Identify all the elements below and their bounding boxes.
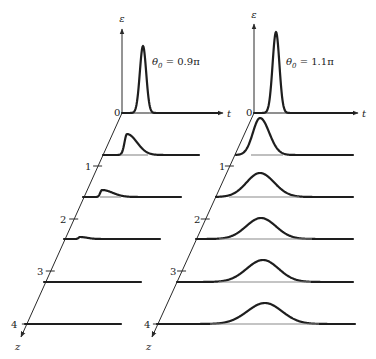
z-tick-label: 3 <box>170 266 176 277</box>
pulse-curve-row-0 <box>254 32 354 113</box>
z-axis-label: z <box>145 341 152 352</box>
epsilon-axis-label: ε <box>119 13 124 24</box>
pulse-curve-row-1 <box>236 118 353 155</box>
origin-label: 0 <box>246 107 252 118</box>
t-axis-label: t <box>362 108 367 119</box>
z-tick-label: 2 <box>194 214 200 225</box>
pulse-curve-row-2 <box>216 173 353 197</box>
panel-left: ε t z 0 θ0 = 0.9π 1234 <box>11 13 232 352</box>
panel-label-theta-1-1pi: θ0 = 1.1π <box>286 56 334 70</box>
z-axis <box>152 113 254 337</box>
z-axis-label: z <box>14 341 21 352</box>
theta-value: = 1.1π <box>297 56 335 67</box>
origin-label: 0 <box>114 107 120 118</box>
z-tick-label: 2 <box>60 214 66 225</box>
panel-label-theta-0-9pi: θ0 = 0.9π <box>152 56 200 70</box>
theta-value: = 0.9π <box>163 56 201 67</box>
t-axis-label: t <box>227 108 232 119</box>
z-tick-label: 3 <box>37 266 43 277</box>
pulse-curve-row-4 <box>177 260 353 282</box>
z-tick-label: 4 <box>144 319 150 330</box>
pulse-curve-row-3 <box>64 237 160 239</box>
pulse-curve-row-2 <box>83 190 181 197</box>
epsilon-axis-label: ε <box>251 9 256 20</box>
pulse-propagation-figure: ε t z 0 θ0 = 0.9π 1234 ε t z 0 θ0 = 1.1π… <box>0 0 376 359</box>
pulse-curves <box>157 32 355 324</box>
z-tick-label: 1 <box>85 161 91 172</box>
z-axis <box>21 113 122 337</box>
z-tick-label: 1 <box>219 161 225 172</box>
pulse-curve-row-5 <box>157 303 355 324</box>
pulse-curve-row-1 <box>103 134 199 155</box>
z-tick-label: 4 <box>11 319 17 330</box>
pulse-curve-row-3 <box>196 218 353 239</box>
